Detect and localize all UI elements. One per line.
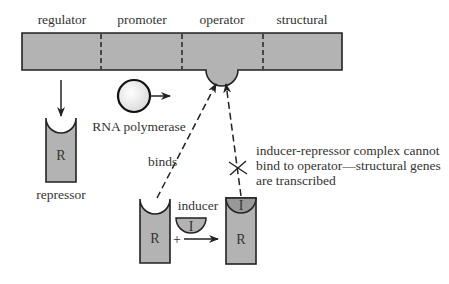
note-line: inducer-repressor complex cannot bbox=[256, 143, 440, 158]
repressor-label: repressor bbox=[36, 187, 86, 202]
lac-operon-diagram: regulator promoter operator structural R… bbox=[0, 0, 449, 284]
inducer-label: inducer bbox=[178, 198, 219, 213]
complex-inducer-symbol: I bbox=[239, 198, 244, 213]
label-regulator: regulator bbox=[38, 12, 87, 27]
free-repressor: R bbox=[140, 199, 170, 263]
repressor-protein: R bbox=[46, 118, 76, 182]
region-labels: regulator promoter operator structural bbox=[38, 12, 328, 27]
note-line: bind to operator—structural genes bbox=[256, 158, 441, 173]
rna-polymerase-label: RNA polymerase bbox=[92, 119, 185, 134]
plus-sign: + bbox=[173, 232, 181, 247]
binds-label: binds bbox=[148, 154, 177, 169]
blocked-binding-arrow bbox=[226, 84, 241, 196]
repressor-symbol: R bbox=[56, 148, 66, 163]
label-operator: operator bbox=[200, 12, 245, 27]
binds-arrow bbox=[157, 84, 216, 198]
rna-polymerase bbox=[118, 80, 170, 112]
note-text: inducer-repressor complex cannot bind to… bbox=[256, 143, 441, 188]
label-structural: structural bbox=[277, 12, 328, 27]
dna-strand bbox=[22, 33, 342, 86]
inducer-symbol: I bbox=[189, 219, 194, 234]
note-line: are transcribed bbox=[256, 173, 336, 188]
label-promoter: promoter bbox=[117, 12, 167, 27]
free-repressor-symbol: R bbox=[150, 231, 160, 246]
rna-polymerase-circle bbox=[118, 80, 150, 112]
inducer-repressor-complex: I R bbox=[226, 198, 256, 264]
complex-repressor-symbol: R bbox=[236, 232, 246, 247]
